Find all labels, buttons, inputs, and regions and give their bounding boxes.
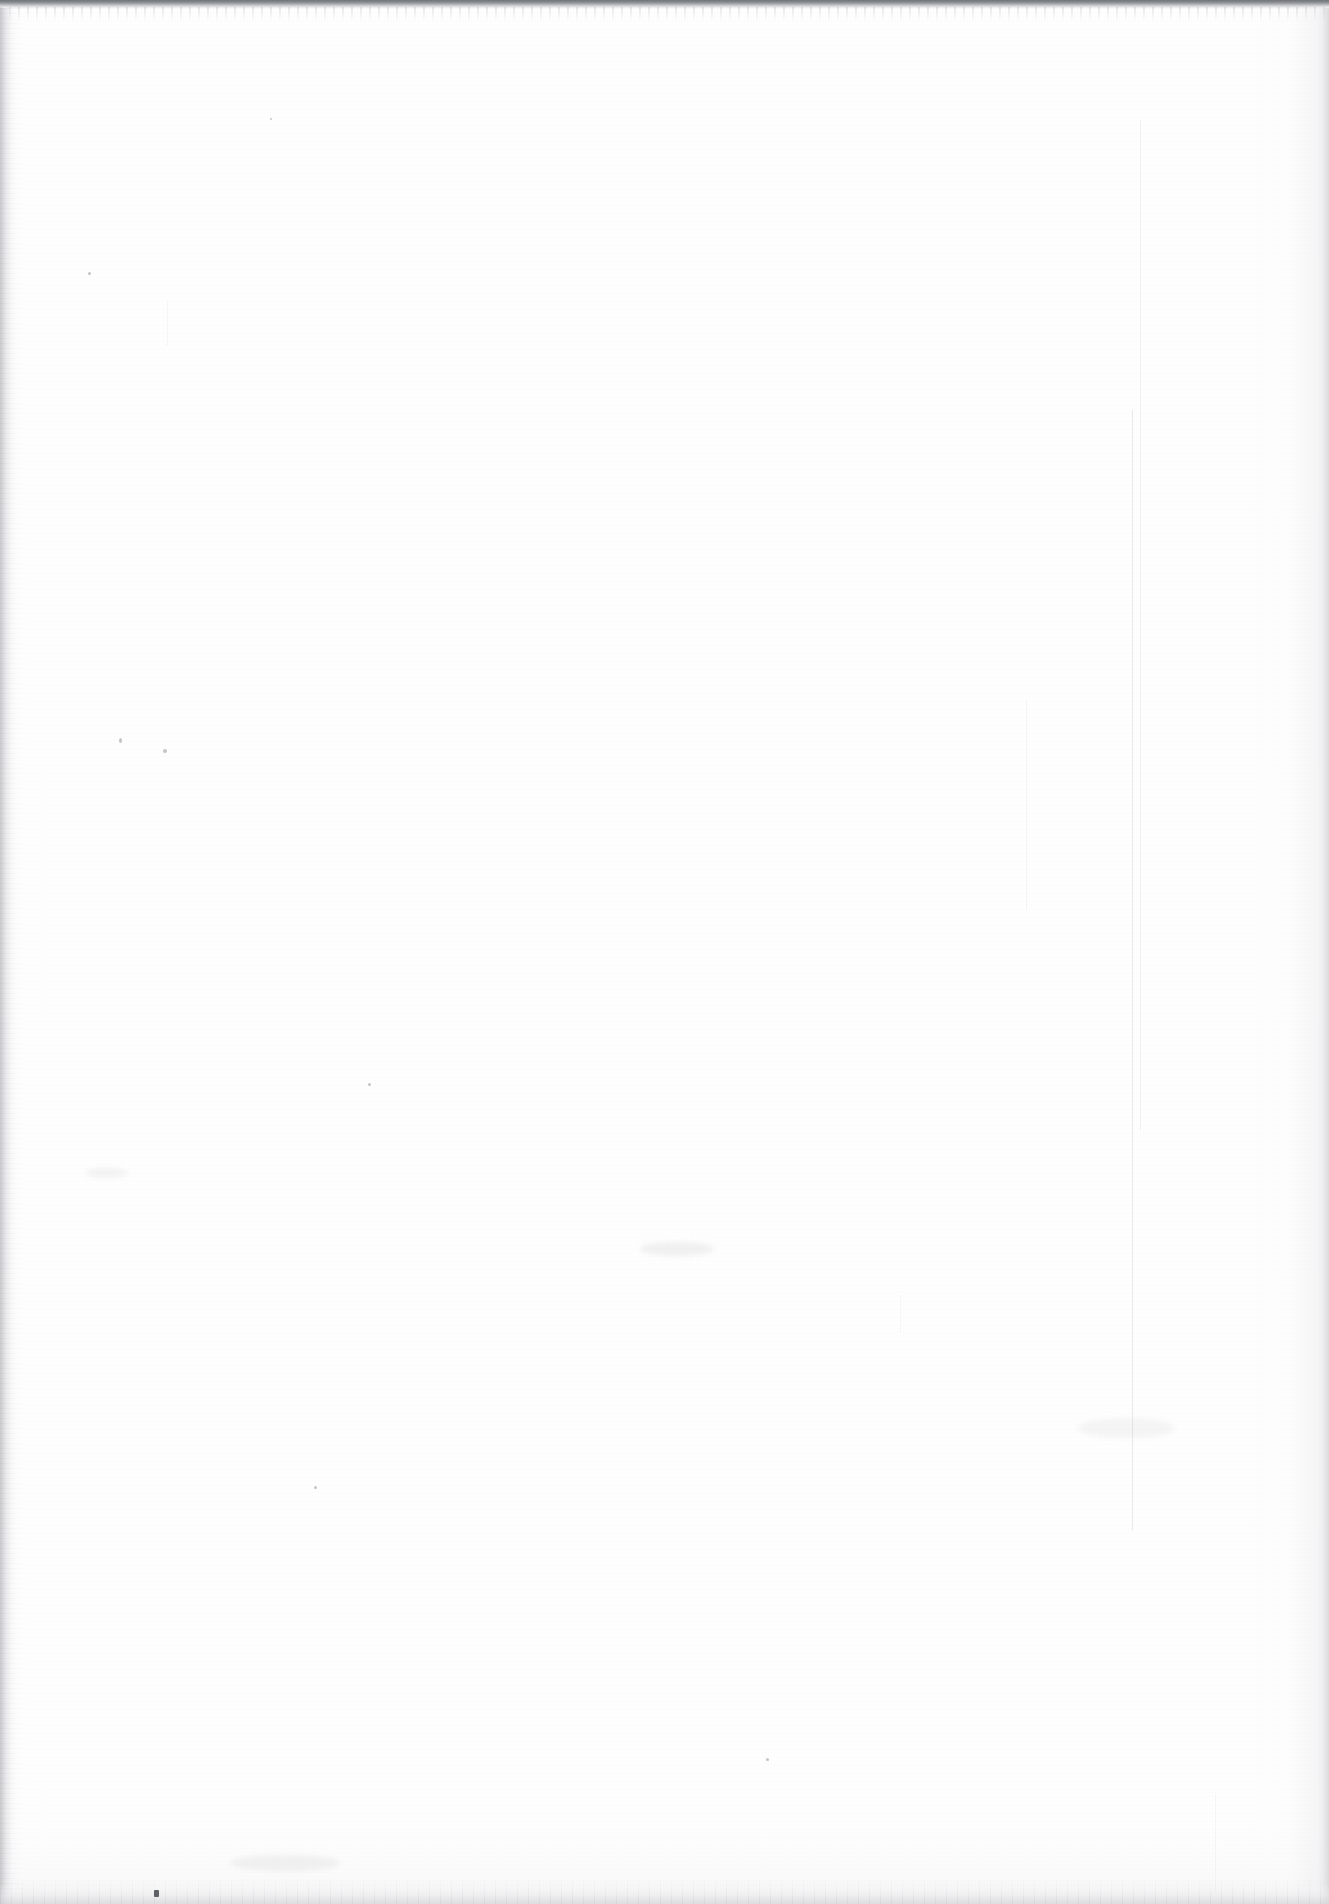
dust-speck <box>368 1083 371 1086</box>
vertical-scan-streak <box>1132 410 1133 1530</box>
dust-speck <box>766 1758 769 1761</box>
vertical-scan-streak <box>1215 1795 1216 1891</box>
dust-speck <box>154 1890 159 1897</box>
dust-speck <box>314 1486 317 1489</box>
vertical-scan-streak <box>1140 120 1141 1130</box>
paper-surface <box>0 0 1329 1904</box>
binding-edge-texture <box>0 8 26 1904</box>
outer-page-edge <box>1313 8 1329 1904</box>
dust-speck <box>270 118 272 120</box>
vertical-scan-streak <box>1026 700 1027 910</box>
dust-speck <box>88 272 91 275</box>
dust-speck <box>163 749 167 753</box>
bottom-edge-speckle <box>0 1876 1329 1904</box>
dust-speck <box>119 738 122 743</box>
scanned-page: Blank page <box>0 0 1329 1904</box>
vertical-scan-streak <box>167 300 168 346</box>
scanner-bed-edge-fray <box>0 7 1329 21</box>
vertical-scan-streak <box>900 1295 901 1333</box>
